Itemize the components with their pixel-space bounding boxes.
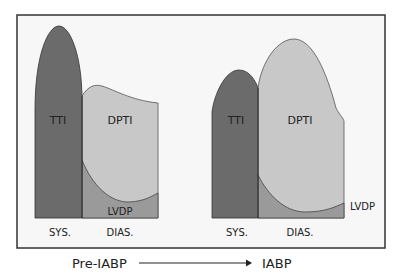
tti-label: TTI (49, 114, 67, 127)
pre-iabp-label: Pre-IABP (72, 256, 127, 271)
arrow-right-icon (246, 260, 252, 267)
lvdp-label: LVDP (107, 206, 132, 217)
systole-label: SYS. (49, 227, 71, 238)
diastole-label: DIAS. (286, 227, 313, 238)
tti-area (212, 70, 258, 218)
dpti-label: DPTI (287, 114, 312, 127)
dpti-label: DPTI (107, 114, 132, 127)
diagram-canvas: TTI DPTI LVDP SYS. DIAS. TTI DPTI LVDP S… (0, 0, 405, 278)
lvdp-label: LVDP (350, 201, 375, 212)
diastole-label: DIAS. (106, 227, 133, 238)
systole-label: SYS. (226, 227, 248, 238)
tti-label: TTI (227, 114, 245, 127)
iabp-label: IABP (262, 256, 292, 271)
